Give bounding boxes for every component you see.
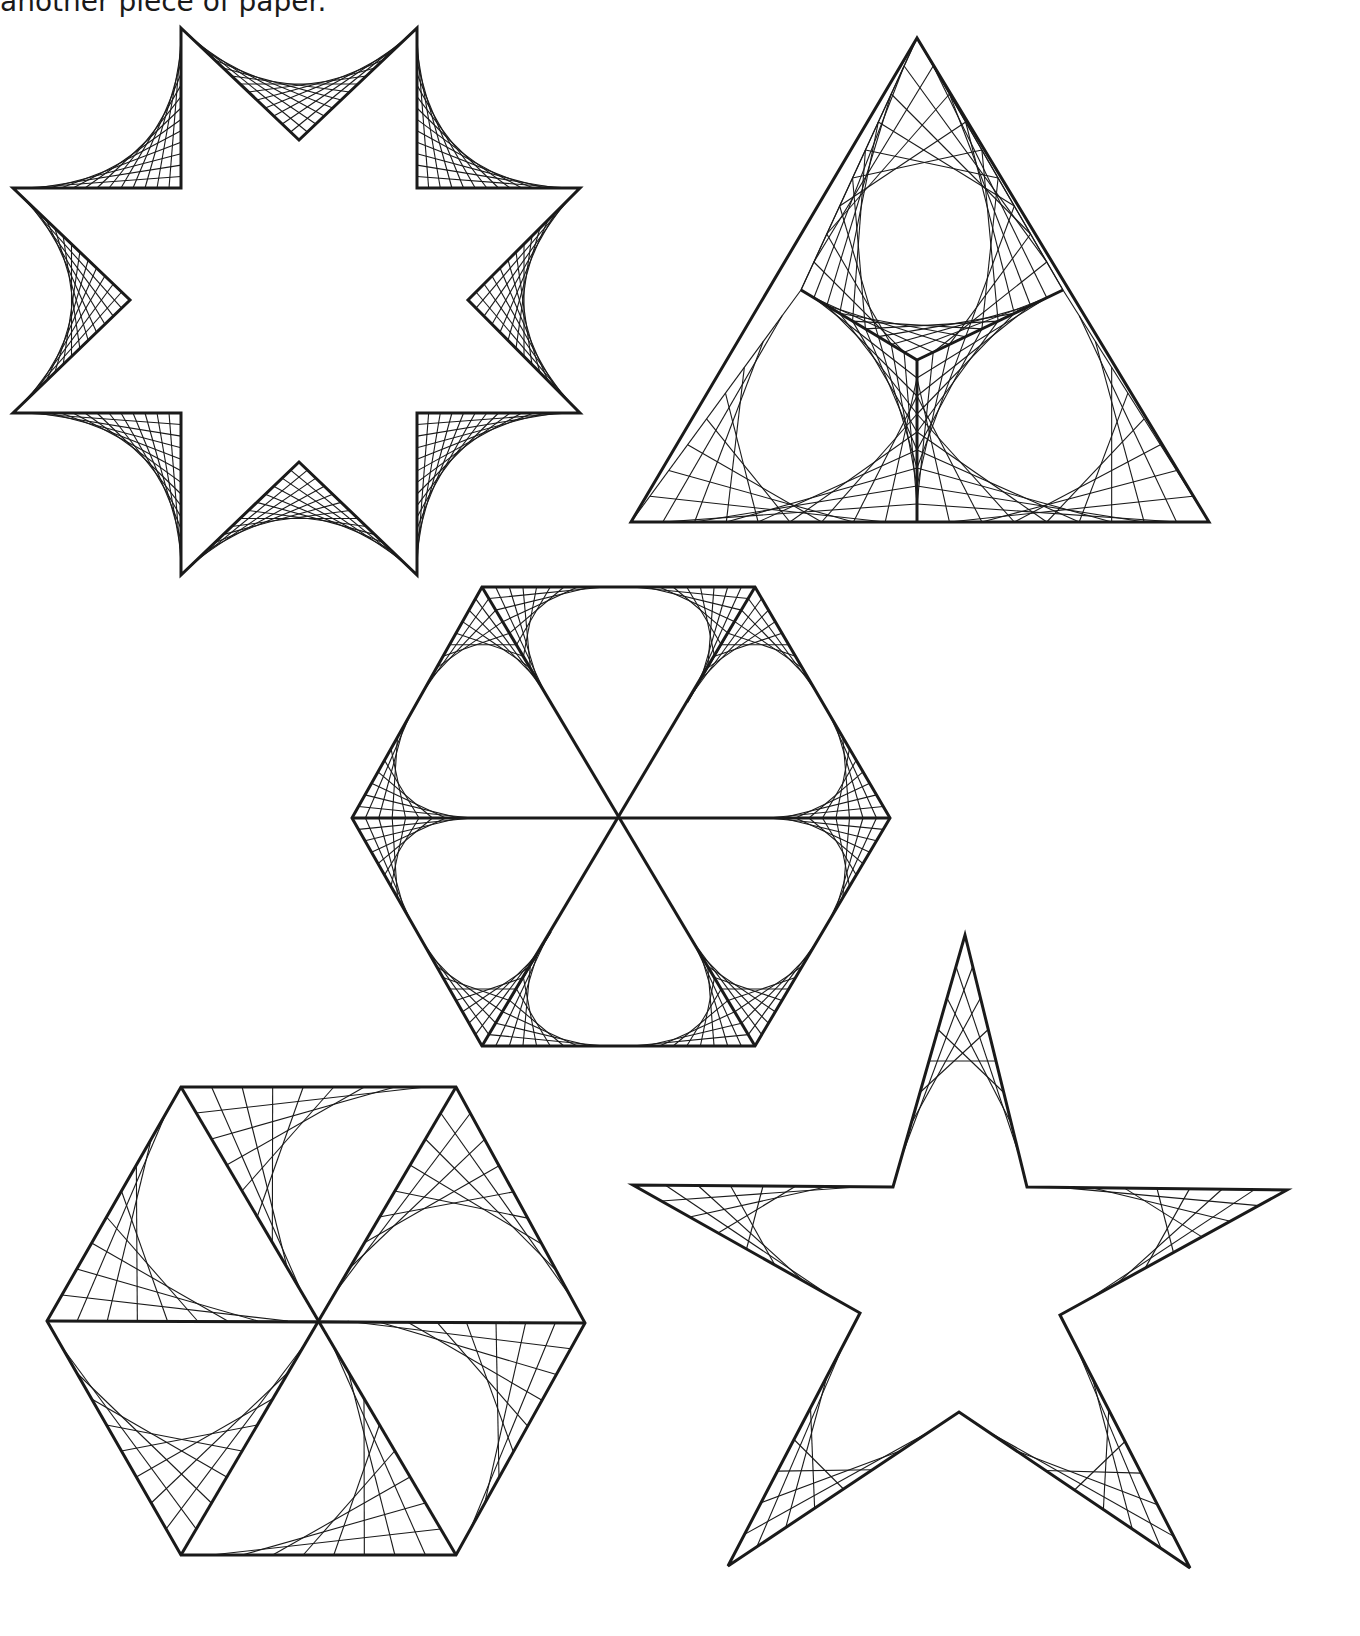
hexagon-flower-figure bbox=[352, 587, 890, 1046]
eight-point-star-figure bbox=[13, 28, 580, 575]
triangle-y-figure bbox=[631, 38, 1209, 522]
curve-stitch-figures bbox=[0, 0, 1360, 1636]
five-point-star-figure bbox=[633, 935, 1287, 1568]
hexagon-pinwheel-figure bbox=[47, 1087, 585, 1555]
